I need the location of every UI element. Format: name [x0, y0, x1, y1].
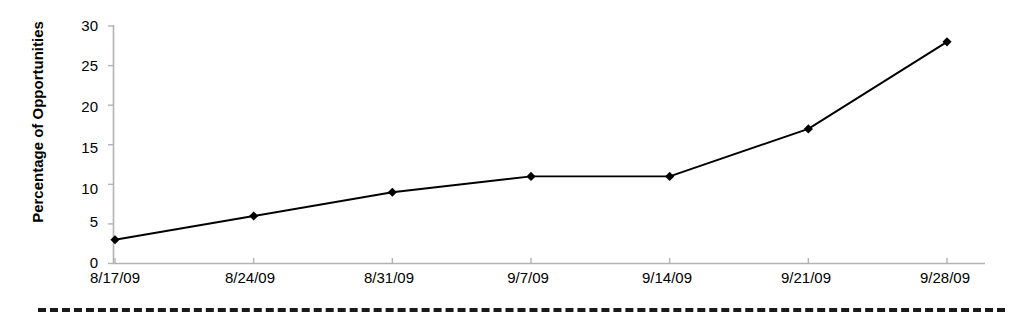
data-point-marker	[526, 172, 535, 181]
data-point-marker	[942, 37, 951, 46]
series-line	[115, 42, 947, 240]
bottom-dashed-divider	[38, 308, 1005, 312]
data-point-marker	[804, 124, 813, 133]
data-point-marker	[388, 188, 397, 197]
chart-figure: Percentage of Opportunities 30 25 20 15 …	[0, 0, 1016, 319]
series-markers	[110, 37, 951, 244]
data-point-marker	[249, 211, 258, 220]
data-point-marker	[665, 172, 674, 181]
plot-area	[0, 0, 1016, 319]
data-point-marker	[110, 235, 119, 244]
